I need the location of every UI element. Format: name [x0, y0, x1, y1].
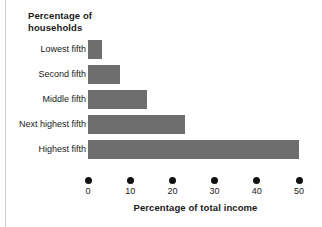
axis-tick-label: 50 — [284, 186, 314, 196]
axis-tick-dot — [211, 177, 218, 184]
axis-tick-label: 40 — [242, 186, 272, 196]
category-label: Highest fifth — [38, 140, 86, 159]
axis-tick-label: 10 — [115, 186, 145, 196]
bar — [88, 115, 185, 134]
x-axis-title: Percentage of total income — [88, 202, 303, 213]
chart-title-line-2: households — [28, 22, 178, 34]
category-label: Second fifth — [38, 65, 86, 84]
bar-row: Second fifth — [0, 65, 322, 84]
x-axis: 01020304050 — [0, 175, 322, 201]
chart-title: Percentage of households — [28, 10, 178, 34]
bar — [88, 140, 299, 159]
axis-tick-label: 20 — [157, 186, 187, 196]
bar-row: Next highest fifth — [0, 115, 322, 134]
bar-row: Middle fifth — [0, 90, 322, 109]
chart-title-line-1: Percentage of — [28, 10, 178, 22]
axis-tick-dot — [169, 177, 176, 184]
plot-area: Lowest fifthSecond fifthMiddle fifthNext… — [0, 40, 322, 175]
category-label: Lowest fifth — [40, 40, 86, 59]
category-label: Next highest fifth — [19, 115, 86, 134]
axis-tick-label: 0 — [73, 186, 103, 196]
axis-tick-dot — [253, 177, 260, 184]
bar — [88, 90, 147, 109]
axis-tick-dot — [296, 177, 303, 184]
bar — [88, 40, 102, 59]
bar-row: Highest fifth — [0, 140, 322, 159]
bar-row: Lowest fifth — [0, 40, 322, 59]
bar — [88, 65, 120, 84]
category-label: Middle fifth — [42, 90, 86, 109]
axis-tick-dot — [127, 177, 134, 184]
bar-chart-figure: Percentage of households Lowest fifthSec… — [0, 0, 322, 227]
axis-tick-dot — [85, 177, 92, 184]
axis-tick-label: 30 — [200, 186, 230, 196]
